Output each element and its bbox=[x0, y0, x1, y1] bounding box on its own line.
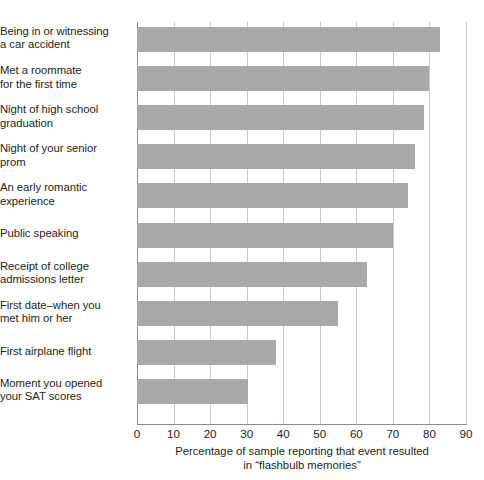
category-label: Being in or witnessinga car accident bbox=[0, 25, 128, 52]
category-label-line: met him or her bbox=[0, 312, 122, 326]
x-tick-label: 0 bbox=[134, 427, 140, 441]
category-axis-labels: Being in or witnessinga car accidentMet … bbox=[0, 22, 130, 426]
plot-area bbox=[137, 22, 466, 425]
x-axis-tick-labels: 0102030405060708090 bbox=[137, 427, 467, 443]
category-label: Met a roommatefor the first time bbox=[0, 64, 128, 91]
category-label-line: graduation bbox=[0, 117, 122, 131]
x-tick-label: 60 bbox=[350, 427, 363, 441]
bar bbox=[137, 223, 393, 248]
category-label-line: First date–when you bbox=[0, 299, 122, 313]
x-tick-label: 90 bbox=[460, 427, 473, 441]
category-label: Night of high schoolgraduation bbox=[0, 103, 128, 130]
category-label-line: Public speaking bbox=[0, 227, 122, 241]
category-label-line: Moment you opened bbox=[0, 377, 122, 391]
category-label-line: Met a roommate bbox=[0, 64, 122, 78]
bar bbox=[137, 340, 276, 365]
x-axis-baseline bbox=[137, 424, 467, 425]
bar bbox=[137, 379, 248, 404]
category-label-line: for the first time bbox=[0, 78, 122, 92]
bar bbox=[137, 144, 415, 169]
category-label: An early romanticexperience bbox=[0, 181, 128, 208]
x-tick-label: 40 bbox=[277, 427, 290, 441]
category-label-line: Night of high school bbox=[0, 103, 122, 117]
x-tick-label: 10 bbox=[167, 427, 180, 441]
category-label-line: An early romantic bbox=[0, 181, 122, 195]
category-label-line: your SAT scores bbox=[0, 390, 122, 404]
x-tick-label: 30 bbox=[240, 427, 253, 441]
x-axis-caption-line-1: Percentage of sample reporting that even… bbox=[120, 445, 484, 459]
gridline-90 bbox=[466, 22, 467, 425]
category-label: Public speaking bbox=[0, 227, 128, 241]
category-label-line: experience bbox=[0, 195, 122, 209]
category-label: First airplane flight bbox=[0, 345, 128, 359]
bar bbox=[137, 183, 408, 208]
bar bbox=[137, 27, 440, 52]
category-label: Moment you openedyour SAT scores bbox=[0, 377, 128, 404]
category-label-line: Being in or witnessing bbox=[0, 25, 122, 39]
x-axis-caption-line-2: in “flashbulb memories” bbox=[120, 459, 484, 473]
category-label-line: First airplane flight bbox=[0, 345, 122, 359]
bar bbox=[137, 301, 338, 326]
category-label-line: prom bbox=[0, 156, 122, 170]
category-label-line: Receipt of college bbox=[0, 260, 122, 274]
bar bbox=[137, 262, 367, 287]
category-label-line: Night of your senior bbox=[0, 142, 122, 156]
x-axis-caption: Percentage of sample reporting that even… bbox=[120, 445, 484, 473]
category-label-line: a car accident bbox=[0, 38, 122, 52]
x-tick-label: 70 bbox=[386, 427, 399, 441]
bar bbox=[137, 105, 424, 130]
flashbulb-memories-bar-chart: Being in or witnessinga car accidentMet … bbox=[0, 0, 484, 480]
x-tick-label: 50 bbox=[313, 427, 326, 441]
category-label: First date–when youmet him or her bbox=[0, 299, 128, 326]
bar-series bbox=[137, 22, 466, 425]
category-label-line: admissions letter bbox=[0, 273, 122, 287]
x-tick-label: 20 bbox=[204, 427, 217, 441]
category-label: Night of your seniorprom bbox=[0, 142, 128, 169]
x-tick-label: 80 bbox=[423, 427, 436, 441]
category-label: Receipt of collegeadmissions letter bbox=[0, 260, 128, 287]
bar bbox=[137, 66, 429, 91]
